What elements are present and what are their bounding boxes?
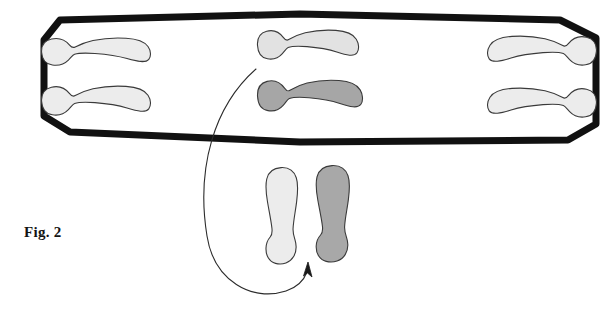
figure-container: Fig. 2 <box>0 0 616 313</box>
figure-caption: Fig. 2 <box>24 224 62 241</box>
footprint-center-upper <box>257 30 358 59</box>
footprint-bottom-right <box>316 166 349 262</box>
footprint-left-lower <box>42 86 151 115</box>
footprint-left-upper <box>42 38 151 65</box>
footprint-bottom-left <box>266 168 298 264</box>
arrow-head-icon <box>304 262 313 277</box>
footprints-layer <box>42 30 597 264</box>
footprint-center-lower <box>258 80 363 111</box>
figure-canvas <box>0 0 616 313</box>
footprint-right-upper <box>488 36 597 65</box>
footprint-right-lower <box>488 88 597 117</box>
